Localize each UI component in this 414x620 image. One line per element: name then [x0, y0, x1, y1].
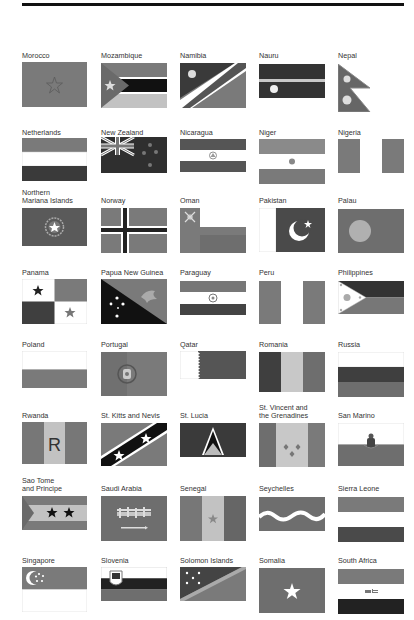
flag-label: Mozambique — [101, 44, 173, 60]
flag-card-south-africa: South Africa — [338, 549, 410, 565]
flag-somalia — [259, 568, 325, 613]
flag-qatar — [180, 351, 246, 379]
flag-nepal — [338, 64, 372, 112]
flag-label: Pakistan — [259, 189, 331, 205]
flag-label: South Africa — [338, 549, 410, 565]
flag-card-st-kitts-and-nevis: St. Kitts and Nevis — [101, 404, 173, 420]
flag-palau — [338, 209, 404, 253]
flag-senegal — [180, 496, 246, 541]
flag-nicaragua — [180, 139, 246, 172]
flag-label: Norway — [101, 189, 173, 205]
moon-icon — [344, 76, 351, 83]
flag-card-nigeria: Nigeria — [338, 121, 410, 137]
flag-card-new-zealand: New Zealand — [101, 121, 173, 137]
flag-label: Poland — [22, 333, 94, 349]
flag-card-portugal: Portugal — [101, 333, 173, 349]
flag-label: Seychelles — [259, 477, 331, 493]
flag-papua-new-guinea — [101, 279, 167, 324]
flag-label: Oman — [180, 189, 252, 205]
flag-label: Peru — [259, 261, 331, 277]
flag-sao-tome-and-principe — [22, 496, 87, 530]
flag-label: Namibia — [180, 44, 252, 60]
flag-solomon-islands — [180, 567, 246, 601]
flag-label: Northern Mariana Islands — [22, 189, 94, 205]
flag-label: St. Vincent and the Grenadines — [259, 404, 331, 420]
flag-label: San Marino — [338, 404, 410, 420]
flag-label: Slovenia — [101, 549, 173, 565]
flag-morocco — [22, 62, 87, 107]
flag-label: Singapore — [22, 549, 94, 565]
sword-icon — [121, 527, 145, 529]
flag-san-marino — [338, 423, 404, 466]
flag-label: Somalia — [259, 549, 331, 565]
flag-label: Qatar — [180, 333, 252, 349]
flag-card-qatar: Qatar — [180, 333, 252, 349]
flag-south-africa — [338, 569, 404, 614]
flag-panama — [22, 279, 87, 324]
flag-sierra-leone — [338, 497, 404, 542]
moon-icon — [349, 220, 371, 242]
flag-card-singapore: Singapore — [22, 549, 94, 565]
flag-card-papua-new-guinea: Papua New Guinea — [101, 261, 173, 277]
emblem-letter: R — [48, 435, 61, 455]
flag-card-pakistan: Pakistan — [259, 189, 331, 205]
flag-card-palau: Palau — [338, 189, 410, 205]
flag-philippines — [338, 281, 404, 314]
flag-norway — [101, 208, 167, 253]
top-rule — [22, 3, 404, 6]
flag-card-nepal: Nepal — [338, 44, 410, 60]
flag-singapore — [22, 567, 87, 612]
flag-nigeria — [338, 139, 404, 173]
flag-label: Russia — [338, 333, 410, 349]
flag-card-norway: Norway — [101, 189, 173, 205]
flag-label: St. Kitts and Nevis — [101, 404, 173, 420]
flag-card-mozambique: Mozambique — [101, 44, 173, 60]
flag-rwanda: R — [22, 422, 87, 464]
flag-label: Nepal — [338, 44, 410, 60]
flag-seychelles — [259, 497, 325, 531]
flag-label: Saudi Arabia — [101, 477, 173, 493]
star-icon — [270, 85, 278, 93]
flag-portugal — [101, 352, 167, 396]
flag-card-san-marino: San Marino — [338, 404, 410, 420]
flag-label: Netherlands — [22, 121, 94, 137]
flag-card-somalia: Somalia — [259, 549, 331, 565]
flag-pakistan — [259, 208, 325, 252]
flag-niger — [259, 139, 325, 184]
flag-card-northern-mariana-islands: Northern Mariana Islands — [22, 189, 94, 205]
flag-card-morocco: Morocco — [22, 44, 94, 60]
flag-card-oman: Oman — [180, 189, 252, 205]
flag-card-nicaragua: Nicaragua — [180, 121, 252, 137]
flag-card-namibia: Namibia — [180, 44, 252, 60]
flag-card-poland: Poland — [22, 333, 94, 349]
flag-card-romania: Romania — [259, 333, 331, 349]
flag-saudi-arabia — [101, 496, 167, 541]
sun-icon — [289, 159, 295, 165]
flag-label: Philippines — [338, 261, 410, 277]
flag-card-solomon-islands: Solomon Islands — [180, 549, 252, 565]
flag-label: Portugal — [101, 333, 173, 349]
flag-peru — [259, 281, 325, 324]
flag-oman — [180, 208, 246, 253]
flag-mozambique — [101, 63, 167, 108]
flag-paraguay — [180, 281, 246, 315]
sun-icon — [343, 96, 352, 105]
flag-card-st-lucia: St. Lucia — [180, 404, 252, 420]
flag-namibia — [180, 63, 246, 108]
flag-label: Palau — [338, 189, 410, 205]
flag-poland — [22, 351, 87, 388]
flag-label: Solomon Islands — [180, 549, 252, 565]
flag-russia — [338, 352, 404, 397]
flag-card-sierra-leone: Sierra Leone — [338, 477, 410, 493]
flag-card-paraguay: Paraguay — [180, 261, 252, 277]
flag-label: Sierra Leone — [338, 477, 410, 493]
flag-card-seychelles: Seychelles — [259, 477, 331, 493]
flag-label: Morocco — [22, 44, 94, 60]
flag-label: Romania — [259, 333, 331, 349]
flag-card-rwanda: Rwanda R — [22, 404, 94, 420]
flag-st-vincent-and-the-grenadines — [259, 423, 325, 467]
flag-st-kitts-and-nevis — [101, 423, 167, 466]
flag-card-peru: Peru — [259, 261, 331, 277]
sun-icon — [344, 294, 351, 301]
flag-card-niger: Niger — [259, 121, 331, 137]
